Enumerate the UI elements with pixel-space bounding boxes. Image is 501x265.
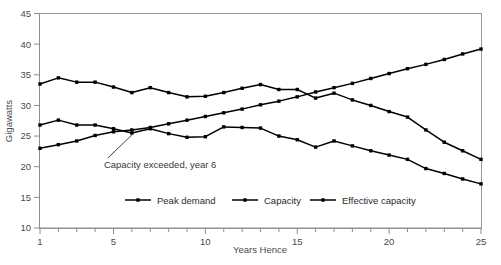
y-axis-tick-labels: 1015202530354045 [20, 8, 31, 234]
data-point-marker [443, 172, 446, 175]
x-tick-label: 20 [384, 236, 395, 247]
data-point-marker [149, 127, 152, 130]
data-point-marker [424, 63, 427, 66]
data-point-marker [93, 134, 96, 137]
data-point-marker [204, 135, 207, 138]
data-point-marker [277, 99, 280, 102]
data-point-marker [314, 96, 317, 99]
legend-entry-effective-capacity[interactable]: Effective capacity [310, 195, 416, 206]
data-point-marker [259, 83, 262, 86]
legend-marker [321, 198, 324, 201]
data-point-marker [443, 141, 446, 144]
legend-entry-capacity[interactable]: Capacity [232, 195, 301, 206]
data-point-marker [240, 126, 243, 129]
data-point-marker [387, 153, 390, 156]
data-point-marker [461, 177, 464, 180]
data-point-marker [75, 139, 78, 142]
data-point-marker [167, 132, 170, 135]
y-tick-label: 15 [20, 192, 31, 203]
data-point-marker [479, 182, 482, 185]
series-line [40, 78, 481, 160]
data-point-marker [222, 125, 225, 128]
data-point-marker [296, 138, 299, 141]
data-point-marker [314, 145, 317, 148]
legend-marker [136, 198, 139, 201]
annotation-leader-line [108, 135, 132, 158]
y-tick-label: 30 [20, 100, 31, 111]
data-point-marker [38, 82, 41, 85]
data-point-marker [93, 123, 96, 126]
legend-entry-peak-demand[interactable]: Peak demand [125, 195, 216, 206]
data-point-marker [222, 91, 225, 94]
data-point-marker [406, 67, 409, 70]
x-axis-title: Years Hence [233, 244, 287, 255]
x-tick-label: 1 [37, 236, 42, 247]
data-point-marker [351, 82, 354, 85]
data-point-marker [93, 80, 96, 83]
data-point-marker [369, 104, 372, 107]
data-point-marker [185, 118, 188, 121]
x-tick-label: 25 [476, 236, 487, 247]
x-tick-label: 10 [200, 236, 211, 247]
y-tick-label: 35 [20, 69, 31, 80]
data-point-marker [387, 72, 390, 75]
data-point-marker [387, 110, 390, 113]
annotation-group: Capacity exceeded, year 6 [104, 135, 216, 170]
data-point-marker [424, 128, 427, 131]
series-line [40, 49, 481, 148]
x-tick-label: 15 [292, 236, 303, 247]
y-tick-label: 20 [20, 161, 31, 172]
data-point-marker [479, 47, 482, 50]
data-point-marker [130, 91, 133, 94]
data-point-marker [222, 111, 225, 114]
data-point-marker [38, 147, 41, 150]
legend-label: Effective capacity [342, 195, 416, 206]
data-point-marker [167, 91, 170, 94]
data-point-marker [112, 85, 115, 88]
data-point-marker [130, 131, 133, 134]
data-point-marker [112, 127, 115, 130]
legend-label: Capacity [264, 195, 301, 206]
data-point-marker [204, 95, 207, 98]
data-point-marker [461, 52, 464, 55]
data-point-marker [240, 87, 243, 90]
data-point-marker [406, 158, 409, 161]
data-point-marker [75, 123, 78, 126]
data-point-marker [296, 88, 299, 91]
y-axis-ticks [34, 14, 40, 229]
line-chart: 1015202530354045 1510152025 Capacity exc… [0, 0, 501, 265]
legend-label: Peak demand [157, 195, 216, 206]
legend-marker [243, 198, 246, 201]
series-effective-capacity [38, 118, 482, 185]
chart-container: 1015202530354045 1510152025 Capacity exc… [0, 0, 501, 265]
data-point-marker [75, 80, 78, 83]
series-peak-demand [38, 47, 482, 150]
data-point-marker [185, 95, 188, 98]
data-point-marker [57, 118, 60, 121]
data-point-marker [406, 115, 409, 118]
data-point-marker [369, 77, 372, 80]
data-point-marker [259, 126, 262, 129]
data-point-marker [332, 139, 335, 142]
data-point-marker [112, 130, 115, 133]
y-tick-label: 45 [20, 8, 31, 19]
series-capacity [38, 76, 482, 161]
data-point-marker [332, 86, 335, 89]
data-point-marker [57, 76, 60, 79]
data-point-marker [479, 158, 482, 161]
data-point-marker [424, 167, 427, 170]
data-point-marker [332, 91, 335, 94]
y-tick-label: 25 [20, 130, 31, 141]
x-tick-label: 5 [111, 236, 116, 247]
y-tick-label: 10 [20, 222, 31, 233]
data-point-marker [38, 123, 41, 126]
data-point-marker [277, 134, 280, 137]
chart-legend: Peak demandCapacityEffective capacity [125, 195, 416, 206]
data-point-marker [240, 107, 243, 110]
data-point-marker [185, 136, 188, 139]
data-point-marker [57, 143, 60, 146]
data-point-marker [167, 122, 170, 125]
annotation-label: Capacity exceeded, year 6 [104, 159, 216, 170]
data-point-marker [149, 86, 152, 89]
data-point-marker [351, 144, 354, 147]
